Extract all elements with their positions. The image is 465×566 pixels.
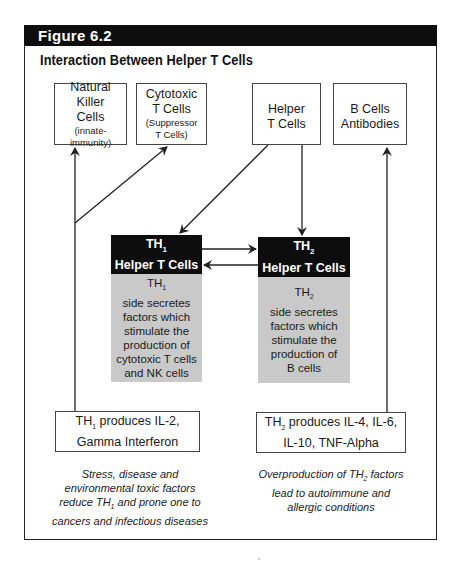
th2-desc-head: TH2 <box>294 285 313 304</box>
caption-left-line: reduce TH1 and prone one to <box>50 495 210 514</box>
cytotoxic-line1: Cytotoxic <box>146 87 197 102</box>
th1-helper-box: TH1 Helper T Cells <box>111 235 202 274</box>
th2-produces-line2: IL-10, TNF-Alpha <box>283 435 379 451</box>
cytotoxic-t-cells-box: Cytotoxic T Cells (Suppressor T Cells) <box>136 83 207 145</box>
th2-produces-line1: TH2 produces IL-4, IL-6, <box>265 414 397 436</box>
helper-t-cells-box: Helper T Cells <box>252 83 321 145</box>
bcells-line1: B Cells <box>350 102 390 117</box>
th1-desc-line: and NK cells <box>124 366 189 380</box>
th2-desc-line: stimulate the <box>271 333 336 347</box>
natural-killer-cells-box: Natural Killer Cells (innate-immunity) <box>54 83 127 145</box>
th2-desc-line: factors which <box>270 319 337 333</box>
th1-produces-box: TH1 produces IL-2, Gamma Interferon <box>55 411 200 452</box>
cytotoxic-note1: (Suppressor <box>146 117 198 129</box>
th2-label: Helper T Cells <box>262 260 345 276</box>
helper-line1: Helper <box>268 102 305 117</box>
scan-speck <box>258 558 260 560</box>
caption-right-line: lead to autoimmune and <box>255 486 407 500</box>
th1-desc-line: side secretes <box>123 296 191 310</box>
th1-desc-line: production of <box>123 338 190 352</box>
caption-right: Overproduction of TH2 factors lead to au… <box>255 467 407 514</box>
caption-left-line: cancers and infectious diseases <box>50 514 210 528</box>
figure-title: Interaction Between Helper T Cells <box>40 52 253 68</box>
nk-line2: Cells <box>77 110 105 125</box>
th2-desc-line: side secretes <box>270 305 338 319</box>
caption-left: Stress, disease and environmental toxic … <box>50 467 210 528</box>
caption-left-line: Stress, disease and <box>50 467 210 481</box>
bcells-line2: Antibodies <box>341 117 399 132</box>
th1-produces-line1: TH1 produces IL-2, <box>76 413 180 435</box>
th1-description-box: TH1 side secretes factors which stimulat… <box>111 274 202 382</box>
th2-description-box: TH2 side secretes factors which stimulat… <box>258 277 350 383</box>
th1-desc-line: factors which <box>123 310 190 324</box>
th2-name: TH2 <box>293 238 314 260</box>
caption-right-line: allergic conditions <box>255 500 407 514</box>
th2-helper-box: TH2 Helper T Cells <box>258 237 350 277</box>
th1-desc-line: cytotoxic T cells <box>116 352 197 366</box>
th1-label: Helper T Cells <box>115 257 198 273</box>
nk-line1: Natural Killer <box>55 80 126 110</box>
nk-note: (innate-immunity) <box>55 125 126 149</box>
th2-produces-box: TH2 produces IL-4, IL-6, IL-10, TNF-Alph… <box>256 412 406 453</box>
th1-desc-line: stimulate the <box>124 324 189 338</box>
cytotoxic-line2: T Cells <box>152 102 191 117</box>
cytotoxic-note2: T Cells) <box>155 129 188 141</box>
th1-name: TH1 <box>146 236 167 258</box>
b-cells-antibodies-box: B Cells Antibodies <box>333 83 407 145</box>
figure-label: Figure 6.2 <box>24 25 437 46</box>
th2-desc-line: B cells <box>287 361 321 375</box>
th1-desc-head: TH1 <box>147 276 166 295</box>
helper-line2: T Cells <box>267 117 306 132</box>
th1-produces-line2: Gamma Interferon <box>77 434 178 450</box>
caption-left-line: environmental toxic factors <box>50 481 210 495</box>
th2-desc-line: production of <box>271 347 338 361</box>
caption-right-line: Overproduction of TH2 factors <box>255 467 407 486</box>
